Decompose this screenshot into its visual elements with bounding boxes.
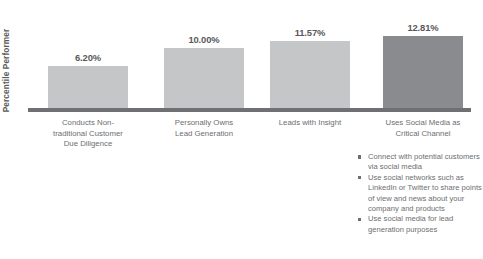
bar-value-1: 6.20% — [33, 52, 143, 63]
category-label-2-line1: Personally Owns — [145, 118, 263, 129]
y-axis-title-label: Percentile Performer — [3, 28, 12, 112]
bar-value-2: 10.00% — [149, 34, 259, 45]
bar-group-4[interactable]: 12.81% — [368, 0, 478, 108]
bar-column-2: 10.00% — [149, 0, 259, 108]
list-item: Use social media for lead generation pur… — [358, 214, 483, 235]
category-label-2-line2: Lead Generation — [145, 129, 263, 140]
bar-group-3[interactable]: 11.57% — [255, 0, 365, 108]
bar-column-1: 6.20% — [33, 0, 143, 108]
category-label-1: Conducts Non- traditional Customer Due D… — [29, 118, 147, 150]
list-item-text: Use social media for lead generation pur… — [368, 214, 453, 233]
category-label-1-line2: traditional Customer — [29, 129, 147, 140]
category-label-1-line1: Conducts Non- — [29, 118, 147, 129]
category-label-2: Personally Owns Lead Generation — [145, 118, 263, 139]
square-bullet-icon — [358, 155, 361, 158]
square-bullet-icon — [358, 176, 361, 179]
bar-4[interactable] — [383, 36, 463, 108]
category-label-3: Leads with Insight — [251, 118, 369, 129]
list-item-text: Connect with potential customers via soc… — [368, 152, 480, 171]
bullet-list-items: Connect with potential customers via soc… — [358, 152, 483, 235]
x-axis-line — [28, 108, 471, 112]
list-item-text: Use social networks such as LinkedIn or … — [368, 173, 482, 213]
bar-group-1[interactable]: 6.20% — [33, 0, 143, 108]
list-item: Connect with potential customers via soc… — [358, 152, 483, 173]
category-label-4-line1: Uses Social Media as — [364, 118, 482, 129]
annotation-bullet-list: Connect with potential customers via soc… — [358, 152, 483, 235]
bar-3[interactable] — [270, 41, 350, 108]
bar-group-2[interactable]: 10.00% — [149, 0, 259, 108]
list-item: Use social networks such as LinkedIn or … — [358, 173, 483, 215]
category-label-3-line1: Leads with Insight — [251, 118, 369, 129]
category-label-4-line2: Critical Channel — [364, 129, 482, 140]
bar-2[interactable] — [164, 48, 244, 108]
bar-column-3: 11.57% — [255, 0, 365, 108]
category-label-4: Uses Social Media as Critical Channel — [364, 118, 482, 139]
bar-value-3: 11.57% — [255, 27, 365, 38]
bar-column-4: 12.81% — [368, 0, 478, 108]
square-bullet-icon — [358, 218, 361, 221]
y-axis-title: Percentile Performer — [0, 14, 14, 126]
category-label-1-line3: Due Diligence — [29, 139, 147, 150]
bar-value-4: 12.81% — [368, 22, 478, 33]
bar-1[interactable] — [48, 66, 128, 108]
chart-plot-area: 6.20% 10.00% 11.57% 12.81% Conducts Non-… — [28, 0, 471, 115]
